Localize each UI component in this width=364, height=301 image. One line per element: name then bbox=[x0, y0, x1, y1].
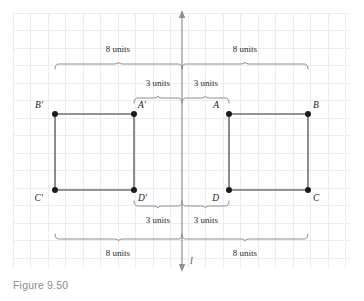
mirror-line-arrow-up-icon bbox=[179, 10, 185, 18]
mirror-line-arrow-down-icon bbox=[179, 264, 185, 272]
vertex-point-bp bbox=[52, 111, 58, 117]
vertex-label-a: A bbox=[212, 100, 219, 110]
vertex-point-d bbox=[226, 187, 232, 193]
vertex-label-b: B bbox=[313, 100, 319, 110]
measurement-brace-bottom-right-8 bbox=[182, 234, 308, 241]
measurement-label-bottom-left-3: 3 units bbox=[146, 215, 171, 225]
vertex-label-ap: A′ bbox=[137, 100, 147, 110]
figure-container: ABCDA′B′C′D′ 8 units8 units3 units3 unit… bbox=[0, 0, 364, 301]
measurement-label-top-right-8: 8 units bbox=[233, 44, 258, 54]
vertex-point-b bbox=[305, 111, 311, 117]
geometry-figure-svg: ABCDA′B′C′D′ 8 units8 units3 units3 unit… bbox=[0, 0, 364, 301]
measurement-label-bottom-right-8: 8 units bbox=[233, 248, 258, 258]
figure-caption: Figure 9.50 bbox=[13, 279, 68, 291]
vertex-point-a bbox=[226, 111, 232, 117]
line-label-group: l bbox=[190, 255, 193, 266]
vertex-point-cp bbox=[52, 187, 58, 193]
mirror-line-label: l bbox=[190, 255, 193, 266]
vertex-label-cp: C′ bbox=[35, 193, 44, 203]
vertex-label-bp: B′ bbox=[35, 100, 44, 110]
vertex-point-c bbox=[305, 187, 311, 193]
vertex-label-d: D bbox=[211, 193, 219, 203]
measurement-label-bottom-left-8: 8 units bbox=[106, 248, 131, 258]
measurement-label-bottom-right-3: 3 units bbox=[194, 215, 219, 225]
measurement-label-top-right-3: 3 units bbox=[194, 78, 219, 88]
mirror-line-l bbox=[179, 10, 185, 272]
vertex-label-c: C bbox=[313, 193, 320, 203]
measurement-label-top-left-8: 8 units bbox=[106, 44, 131, 54]
vertex-point-ap bbox=[131, 111, 137, 117]
rectangle-A1B1C1D1 bbox=[55, 114, 134, 190]
vertex-point-dp bbox=[131, 187, 137, 193]
measurement-label-top-left-3: 3 units bbox=[146, 78, 171, 88]
vertex-label-dp: D′ bbox=[137, 193, 148, 203]
